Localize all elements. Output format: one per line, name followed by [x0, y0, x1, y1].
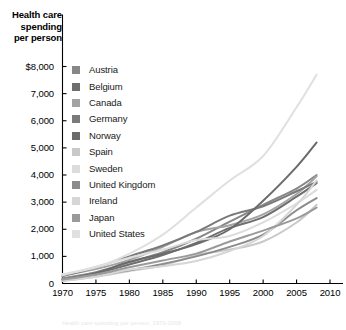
legend-item-belgium[interactable]: Belgium: [72, 78, 155, 94]
legend-item-japan[interactable]: Japan: [72, 210, 155, 226]
y-axis-tick-label: 4,000: [0, 170, 54, 180]
y-axis-tick-label: 5,000: [0, 143, 54, 153]
legend-item-austria[interactable]: Austria: [72, 62, 155, 78]
legend-swatch-icon: [72, 148, 80, 156]
legend-item-germany[interactable]: Germany: [72, 111, 155, 127]
legend-swatch-icon: [72, 181, 80, 189]
legend-swatch-icon: [72, 115, 80, 123]
y-axis-tick-label: 1,000: [0, 251, 54, 261]
legend-item-label: Japan: [89, 213, 114, 223]
chart-footnote: Health care spending per person, 1970-20…: [62, 320, 342, 327]
chart-legend: AustriaBelgiumCanadaGermanyNorwaySpainSw…: [72, 62, 155, 242]
legend-item-label: Spain: [89, 147, 113, 157]
legend-item-label: United States: [89, 229, 145, 239]
legend-item-united-states[interactable]: United States: [72, 226, 155, 242]
y-axis-tick-label: 3,000: [0, 197, 54, 207]
legend-item-label: United Kingdom: [89, 180, 155, 190]
legend-item-label: Canada: [89, 98, 122, 108]
x-axis-tick-label: 2010: [310, 288, 346, 298]
legend-item-spain[interactable]: Spain: [72, 144, 155, 160]
legend-item-norway[interactable]: Norway: [72, 128, 155, 144]
legend-swatch-icon: [72, 83, 80, 91]
legend-swatch-icon: [72, 197, 80, 205]
legend-item-label: Belgium: [89, 82, 123, 92]
y-axis-tick-label: 7,000: [0, 89, 54, 99]
legend-swatch-icon: [72, 66, 80, 74]
health-care-spending-chart: Health care spending per person $8,0007,…: [0, 0, 346, 330]
legend-swatch-icon: [72, 99, 80, 107]
legend-swatch-icon: [72, 230, 80, 238]
legend-swatch-icon: [72, 214, 80, 222]
legend-item-ireland[interactable]: Ireland: [72, 193, 155, 209]
y-axis-tick-label: 6,000: [0, 116, 54, 126]
y-axis-tick-label: $8,000: [0, 62, 54, 72]
legend-item-canada[interactable]: Canada: [72, 95, 155, 111]
legend-item-label: Ireland: [89, 196, 117, 206]
legend-swatch-icon: [72, 132, 80, 140]
legend-item-label: Sweden: [89, 164, 123, 174]
legend-item-sweden[interactable]: Sweden: [72, 160, 155, 176]
legend-item-united-kingdom[interactable]: United Kingdom: [72, 177, 155, 193]
legend-item-label: Austria: [89, 65, 118, 75]
y-axis-tick-label: 2,000: [0, 224, 54, 234]
legend-item-label: Norway: [89, 131, 121, 141]
legend-swatch-icon: [72, 165, 80, 173]
legend-item-label: Germany: [89, 114, 127, 124]
